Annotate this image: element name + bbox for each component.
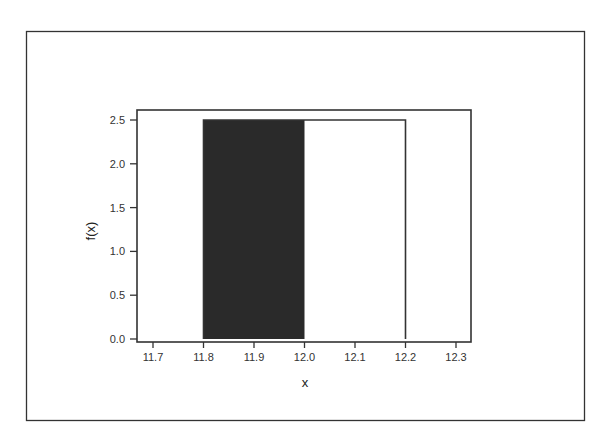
x-tick-label: 12.1 — [344, 351, 365, 363]
plot-layer: 11.711.811.912.012.112.212.30.00.51.01.5… — [110, 110, 471, 363]
chart: 11.711.811.912.012.112.212.30.00.51.01.5… — [0, 0, 603, 440]
x-tick-label: 12.0 — [294, 351, 315, 363]
x-tick-label: 12.3 — [445, 351, 466, 363]
x-tick-label: 11.8 — [193, 351, 214, 363]
y-tick-label: 0.5 — [110, 289, 125, 301]
y-tick-label: 1.5 — [110, 202, 125, 214]
y-tick-label: 0.0 — [110, 333, 125, 345]
y-axis-label: f(x) — [83, 222, 98, 241]
x-axis-label: x — [302, 375, 309, 390]
x-tick-label: 11.9 — [244, 351, 265, 363]
x-tick-label: 11.7 — [143, 351, 164, 363]
y-tick-label: 2.0 — [110, 158, 125, 170]
x-tick-label: 12.2 — [395, 351, 416, 363]
y-tick-label: 1.0 — [110, 245, 125, 257]
shaded-region — [204, 120, 305, 339]
y-tick-label: 2.5 — [110, 114, 125, 126]
